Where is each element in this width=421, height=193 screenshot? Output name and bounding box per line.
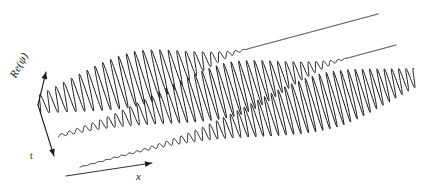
wavefunction-figure: Re(ψ) x t [0, 0, 421, 193]
wave-trace [58, 45, 396, 137]
wave-plot-svg [0, 0, 421, 193]
re-psi-axis-arrowhead [41, 72, 47, 79]
x-axis-label: x [136, 170, 141, 182]
wave-traces-group [39, 14, 415, 167]
t-axis-arrowhead [49, 148, 55, 156]
t-axis-line [38, 105, 54, 156]
x-axis-arrowhead [145, 161, 152, 167]
